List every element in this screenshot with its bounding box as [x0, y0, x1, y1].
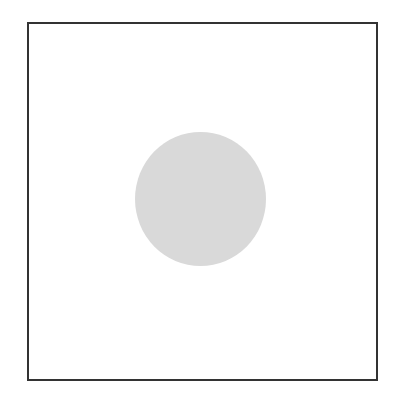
gray-circle: [135, 132, 266, 266]
